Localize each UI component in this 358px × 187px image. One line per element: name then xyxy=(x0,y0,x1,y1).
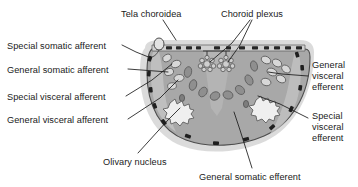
anatomical-figure: Tela choroidea Choroid plexus Special so… xyxy=(0,0,358,187)
leader-tela-choroidea xyxy=(163,20,176,40)
label-general-somatic-efferent: General somatic efferent xyxy=(199,172,301,183)
label-general-somatic-afferent: General somatic afferent xyxy=(7,65,109,76)
label-special-visceral-afferent: Special visceral afferent xyxy=(7,92,106,103)
tela-left-loop xyxy=(154,38,164,50)
label-tela-choroidea: Tela choroidea xyxy=(121,9,181,20)
label-olivary-nucleus: Olivary nucleus xyxy=(103,157,167,168)
label-general-visceral-afferent: General visceral afferent xyxy=(7,115,108,126)
label-general-visceral-efferent: General visceral efferent xyxy=(312,60,358,94)
label-choroid-plexus: Choroid plexus xyxy=(221,9,283,20)
label-special-somatic-afferent: Special somatic afferent xyxy=(7,41,106,52)
label-special-visceral-efferent: Special visceral efferent xyxy=(312,111,358,145)
